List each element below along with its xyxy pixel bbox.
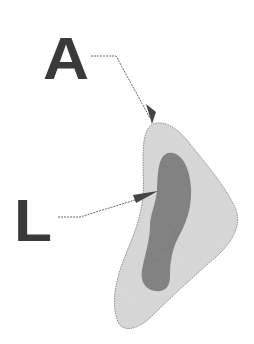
label-a: A bbox=[43, 25, 89, 92]
diagram-canvas: A L bbox=[0, 0, 254, 344]
leader-line-a bbox=[91, 56, 156, 124]
label-l: L bbox=[14, 187, 52, 254]
